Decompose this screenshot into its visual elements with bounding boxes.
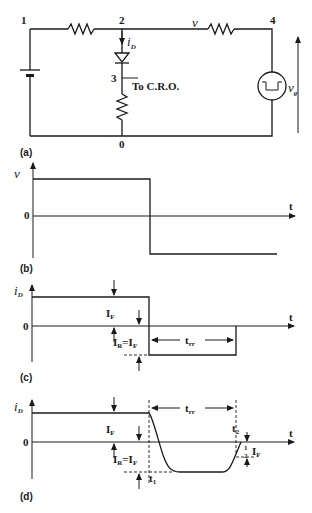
ideal-current-panel: iD 0 t IF IR=IF trr (c)	[14, 280, 294, 383]
actual-current-panel: iD 0 t IF IR=IF trr t1 t2 1 2 IF (d)	[14, 397, 294, 502]
current-id-label: iD	[127, 34, 136, 51]
node-4-label: 4	[270, 14, 276, 26]
b-y-label: v	[14, 166, 20, 181]
cro-label: To C.R.O.	[132, 80, 180, 92]
node-3-label: 3	[111, 72, 117, 84]
voltage-v-label: v	[192, 15, 198, 30]
d-ir-label: IR=IF	[113, 453, 137, 467]
d-trr-label: trr	[185, 402, 195, 416]
d-y-label: iD	[14, 399, 23, 415]
caption-d: (d)	[20, 491, 33, 502]
b-zero-label: 0	[24, 209, 30, 221]
diode-reverse-recovery-figure: 1 2 3 4 0 iD To C.R.O. v vg (a) v 0 t (b…	[0, 0, 312, 513]
resistor-r2-icon	[208, 24, 234, 34]
d-t2-label: t2	[232, 422, 240, 436]
c-x-label: t	[289, 311, 293, 323]
node-1-label: 1	[21, 14, 27, 26]
resistor-r3-icon	[117, 94, 127, 120]
b-x-label: t	[289, 200, 293, 212]
bottom-wire	[30, 100, 272, 136]
c-trr-label: trr	[185, 334, 195, 348]
circuit-panel: 1 2 3 4 0 iD To C.R.O. v vg (a)	[20, 14, 298, 158]
caption-a: (a)	[20, 147, 32, 158]
c-y-label: iD	[14, 283, 23, 299]
resistor-r1-icon	[68, 24, 94, 34]
node-0-label: 0	[119, 138, 125, 150]
diode-icon	[115, 53, 129, 63]
d-half-den: 2	[244, 452, 248, 460]
square-wave-source-icon	[258, 72, 286, 100]
d-zero-label: 0	[23, 436, 29, 448]
battery-icon	[20, 70, 40, 77]
c-zero-label: 0	[23, 320, 29, 332]
c-if-label: IF	[106, 307, 115, 321]
voltage-waveform-panel: v 0 t (b)	[14, 163, 295, 274]
d-x-label: t	[289, 427, 293, 439]
top-wire-right	[234, 29, 272, 72]
d-half-num: 1	[244, 444, 248, 452]
caption-c: (c)	[20, 372, 32, 383]
c-ir-label: IR=IF	[113, 336, 137, 350]
d-if-label: IF	[106, 423, 115, 437]
d-t1-label: t1	[149, 472, 157, 486]
node-2-label: 2	[119, 14, 125, 26]
source-vg-label: vg	[288, 80, 298, 97]
d-half-if-label: IF	[252, 445, 261, 459]
caption-b: (b)	[20, 263, 33, 274]
